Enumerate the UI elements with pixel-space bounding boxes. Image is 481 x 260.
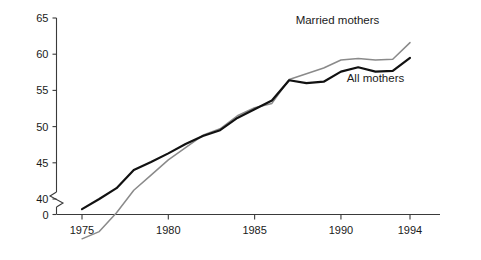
- x-tick-labels: 19751980198519901994: [70, 224, 422, 236]
- y-tick-label-60: 60: [36, 48, 48, 60]
- x-tick-marks: [82, 215, 410, 220]
- y-tick-marks: [53, 18, 57, 215]
- x-tick-label-1990: 1990: [329, 224, 353, 236]
- y-tick-label-40: 40: [36, 193, 48, 205]
- series-annotations: Married mothers All mothers: [296, 14, 405, 84]
- x-tick-label-1975: 1975: [70, 224, 94, 236]
- y-tick-label-65: 65: [36, 12, 48, 24]
- y-axis: 0404550556065: [36, 12, 63, 221]
- x-axis: 19751980198519901994: [57, 215, 441, 236]
- x-tick-label-1985: 1985: [242, 224, 266, 236]
- married-mothers-label: Married mothers: [296, 14, 380, 26]
- line-chart: 0404550556065 19751980198519901994 Marri…: [0, 0, 481, 260]
- y-tick-label-50: 50: [36, 121, 48, 133]
- all-mothers-label: All mothers: [347, 72, 405, 84]
- y-tick-label-55: 55: [36, 84, 48, 96]
- y-tick-label-0: 0: [42, 209, 48, 221]
- y-tick-label-45: 45: [36, 157, 48, 169]
- x-tick-label-1980: 1980: [156, 224, 180, 236]
- y-tick-labels: 0404550556065: [36, 12, 48, 221]
- chart-container: 0404550556065 19751980198519901994 Marri…: [0, 0, 481, 260]
- x-tick-label-1994: 1994: [398, 224, 422, 236]
